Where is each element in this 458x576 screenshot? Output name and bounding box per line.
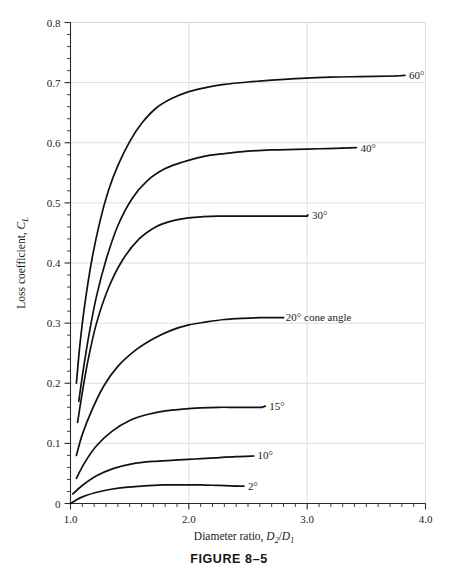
y-tick-label: 0.1 bbox=[47, 437, 61, 449]
leader-line bbox=[262, 406, 265, 407]
figure-container: 1.02.03.04.0 00.10.20.30.40.50.60.70.8 6… bbox=[0, 0, 458, 576]
curve-30- bbox=[78, 216, 308, 422]
figure-caption: FIGURE 8–5 bbox=[0, 552, 458, 566]
x-tick-label: 2.0 bbox=[182, 513, 196, 525]
curve-10- bbox=[73, 456, 254, 494]
y-tick-label: 0.5 bbox=[47, 197, 61, 209]
series-labels-group: 60°40°30°20° cone angle15°10°2° bbox=[248, 69, 424, 492]
leader-line bbox=[307, 215, 308, 216]
leader-line bbox=[343, 148, 357, 149]
series-label-15-: 15° bbox=[269, 400, 284, 412]
gridlines-group bbox=[71, 23, 426, 504]
series-label-2-: 2° bbox=[248, 480, 258, 492]
series-label-10-: 10° bbox=[257, 449, 272, 461]
curve-15- bbox=[76, 407, 262, 478]
series-label-40-: 40° bbox=[360, 142, 375, 154]
curve-40- bbox=[79, 148, 343, 401]
series-label-20-cone-angle: 20° cone angle bbox=[286, 311, 352, 323]
y-tick-label: 0.7 bbox=[47, 77, 61, 89]
series-leader-lines-group bbox=[236, 75, 405, 486]
y-tick-label: 0.6 bbox=[47, 137, 61, 149]
series-label-60-: 60° bbox=[409, 69, 424, 81]
y-tick-label: 0.3 bbox=[47, 317, 61, 329]
y-tick-label: 0.2 bbox=[47, 377, 61, 389]
leader-line bbox=[396, 75, 405, 76]
x-axis-tick-labels: 1.02.03.04.0 bbox=[64, 513, 433, 525]
loss-coefficient-chart: 1.02.03.04.0 00.10.20.30.40.50.60.70.8 6… bbox=[0, 0, 458, 576]
series-label-30-: 30° bbox=[312, 209, 327, 221]
curve-60- bbox=[76, 76, 396, 383]
y-tick-label: 0.8 bbox=[47, 17, 61, 29]
x-tick-label: 1.0 bbox=[64, 513, 78, 525]
y-axis-tick-labels: 00.10.20.30.40.50.60.70.8 bbox=[47, 17, 61, 510]
y-tick-label: 0 bbox=[55, 498, 61, 510]
y-tick-label: 0.4 bbox=[47, 257, 61, 269]
x-tick-label: 4.0 bbox=[419, 513, 433, 525]
x-tick-label: 3.0 bbox=[300, 513, 314, 525]
y-axis-title: Loss coefficient, CL bbox=[15, 217, 30, 309]
x-axis-title: Diameter ratio, D2/D1 bbox=[194, 530, 294, 545]
curve-2- bbox=[71, 485, 237, 504]
data-curves-group bbox=[71, 76, 396, 503]
